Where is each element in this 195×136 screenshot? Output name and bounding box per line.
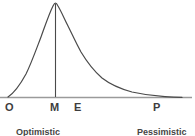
caption-pessimistic: Pessimistic [137,127,187,136]
axis-label-optimistic: O [5,101,14,114]
axis-label-expected: E [74,101,81,114]
axis-label-most-likely: M [50,101,59,114]
estimation-chart-figure: O M E P Optimistic Pessimistic [0,0,195,136]
axis-label-pessimistic: P [153,101,160,114]
distribution-plot [0,0,195,136]
caption-optimistic: Optimistic [16,127,60,136]
distribution-curve [8,3,182,97]
